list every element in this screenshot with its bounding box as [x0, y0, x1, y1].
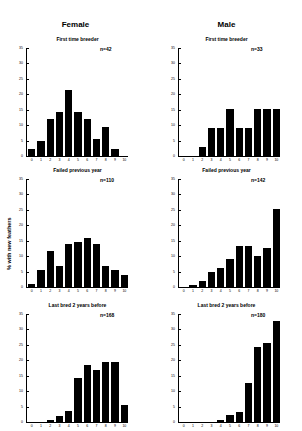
- x-tick-label: 7: [92, 424, 101, 428]
- bar: [37, 270, 44, 287]
- x-tick-label: 5: [226, 289, 235, 293]
- x-tick-label: 6: [235, 289, 244, 293]
- x-tick-label: 9: [111, 424, 120, 428]
- x-tick-label: 10: [120, 289, 129, 293]
- y-tick-label: 5: [165, 139, 175, 143]
- chart-panel: Last bred 2 years beforen=18005101520253…: [151, 302, 302, 431]
- bar: [226, 109, 233, 156]
- sample-size-label: n=168: [100, 312, 114, 318]
- sample-size-label: n=180: [251, 312, 265, 318]
- bar: [74, 242, 81, 287]
- x-tick-label: 0: [27, 424, 36, 428]
- y-tick-mark: [27, 360, 29, 361]
- x-tick-label: 9: [263, 289, 272, 293]
- y-tick-mark: [179, 179, 181, 180]
- y-tick-mark: [27, 256, 29, 257]
- x-tick-label: 2: [198, 424, 207, 428]
- y-tick-label: 30: [13, 192, 23, 196]
- bar: [102, 362, 109, 422]
- x-tick-label: 6: [235, 158, 244, 162]
- x-tick-label: 7: [244, 424, 253, 428]
- y-tick-label: 25: [13, 77, 23, 81]
- x-tick-label: 5: [226, 424, 235, 428]
- y-tick-label: 25: [165, 77, 175, 81]
- bar: [254, 256, 261, 287]
- y-tick-mark: [179, 391, 181, 392]
- bar: [47, 251, 54, 287]
- y-tick-mark: [27, 391, 29, 392]
- bar: [226, 415, 233, 422]
- bar: [74, 378, 81, 422]
- y-tick-label: 10: [165, 254, 175, 258]
- x-tick-label: 4: [64, 289, 73, 293]
- x-axis: [26, 156, 128, 157]
- x-tick-label: 10: [120, 158, 129, 162]
- x-tick-label: 3: [55, 424, 64, 428]
- y-tick-mark: [27, 376, 29, 377]
- x-tick-label: 4: [216, 289, 225, 293]
- x-tick-label: 0: [27, 289, 36, 293]
- bar: [37, 141, 44, 156]
- bar: [56, 112, 63, 156]
- y-tick-label: 20: [165, 92, 175, 96]
- x-tick-label: 7: [244, 289, 253, 293]
- x-tick-label: 0: [27, 158, 36, 162]
- y-tick-label: 5: [13, 405, 23, 409]
- sample-size-label: n=33: [251, 46, 263, 52]
- y-tick-label: 15: [13, 108, 23, 112]
- y-tick-mark: [179, 360, 181, 361]
- y-tick-label: 15: [165, 239, 175, 243]
- y-tick-mark: [179, 376, 181, 377]
- y-tick-label: 30: [165, 61, 175, 65]
- chart-panel: First time breedern=33051015202530350123…: [151, 36, 302, 171]
- bar: [121, 405, 128, 422]
- chart-panel: First time breedern=42051015202530350123…: [0, 36, 151, 171]
- y-tick-label: 10: [165, 123, 175, 127]
- y-tick-label: 20: [165, 223, 175, 227]
- x-tick-label: 1: [36, 158, 45, 162]
- bar: [47, 420, 54, 422]
- y-tick-label: 30: [165, 192, 175, 196]
- y-tick-mark: [27, 110, 29, 111]
- x-tick-label: 10: [272, 424, 281, 428]
- y-tick-mark: [27, 94, 29, 95]
- x-tick-label: 5: [226, 158, 235, 162]
- y-tick-mark: [27, 287, 29, 288]
- y-tick-label: 15: [13, 239, 23, 243]
- bar: [236, 128, 243, 156]
- y-tick-mark: [27, 156, 29, 157]
- y-tick-label: 30: [165, 327, 175, 331]
- x-tick-label: 9: [263, 158, 272, 162]
- bar: [245, 246, 252, 287]
- x-tick-label: 9: [263, 424, 272, 428]
- y-tick-mark: [27, 63, 29, 64]
- y-tick-label: 15: [165, 108, 175, 112]
- bar: [199, 281, 206, 287]
- x-tick-label: 3: [55, 158, 64, 162]
- y-tick-mark: [179, 329, 181, 330]
- y-tick-mark: [27, 141, 29, 142]
- y-tick-mark: [27, 329, 29, 330]
- y-tick-label: 5: [13, 270, 23, 274]
- y-tick-mark: [27, 272, 29, 273]
- y-tick-label: 0: [165, 285, 175, 289]
- x-tick-label: 10: [120, 424, 129, 428]
- sample-size-label: n=110: [100, 177, 114, 183]
- bar: [245, 383, 252, 422]
- bar: [273, 321, 280, 422]
- x-tick-label: 8: [253, 158, 262, 162]
- y-tick-label: 20: [13, 223, 23, 227]
- x-axis: [178, 156, 280, 157]
- column-title-female: Female: [0, 20, 151, 29]
- x-tick-label: 3: [207, 424, 216, 428]
- y-tick-mark: [27, 407, 29, 408]
- bar: [28, 149, 35, 156]
- bar: [208, 128, 215, 156]
- y-tick-mark: [27, 314, 29, 315]
- x-tick-label: 8: [101, 424, 110, 428]
- bar: [28, 284, 35, 287]
- x-tick-label: 1: [188, 424, 197, 428]
- bar: [236, 246, 243, 287]
- y-tick-label: 0: [13, 154, 23, 158]
- y-tick-label: 30: [13, 327, 23, 331]
